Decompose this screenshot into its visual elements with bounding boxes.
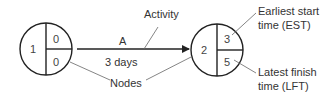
nodes-annotation: Nodes — [110, 77, 142, 89]
lft-annotation-line1: Latest finish — [258, 66, 317, 78]
node-1-est: 0 — [53, 33, 59, 45]
node-1-id: 1 — [30, 43, 36, 55]
activity-annotation: Activity — [144, 8, 179, 20]
nodes-leader-line-1 — [70, 62, 110, 80]
activity-duration: 3 days — [105, 56, 137, 68]
node-2-est: 3 — [224, 33, 230, 45]
node-1 — [20, 23, 72, 75]
node-2-id: 2 — [201, 44, 207, 56]
est-leader-line — [232, 13, 256, 35]
nodes-leader-line-2 — [146, 56, 193, 80]
est-annotation-line1: Earliest start — [258, 5, 319, 17]
node-2-lft: 5 — [224, 56, 230, 68]
lft-annotation-line2: time (LFT) — [258, 80, 309, 92]
est-annotation-line2: time (EST) — [258, 19, 311, 31]
node-1-lft: 0 — [53, 56, 59, 68]
activity-name: A — [119, 35, 126, 47]
activity-leader-line — [144, 27, 158, 49]
